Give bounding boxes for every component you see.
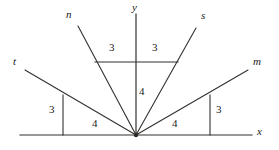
- length-label-m-run: 4: [172, 118, 178, 129]
- length-label-m-rise: 3: [216, 104, 222, 115]
- origin-point: [134, 133, 138, 137]
- length-label-t-run: 4: [92, 118, 98, 129]
- length-label-y-rise: 4: [139, 86, 145, 97]
- ray-label-t: t: [13, 56, 16, 67]
- length-label-s-run: 3: [152, 42, 158, 53]
- ray-t-line: [25, 70, 136, 135]
- ray-label-n: n: [66, 9, 72, 20]
- axis-label-x: x: [257, 126, 262, 137]
- length-label-n-run: 3: [109, 42, 115, 53]
- ray-s-line: [136, 28, 196, 135]
- ray-label-s: s: [201, 10, 205, 21]
- geometry-canvas: [0, 0, 279, 150]
- geometry-figure: t n s m x y 3 3 4 3 4 4 3: [0, 0, 279, 150]
- ray-label-m: m: [253, 56, 261, 67]
- length-label-t-rise: 3: [49, 104, 55, 115]
- ray-m-line: [136, 70, 248, 135]
- axis-label-y: y: [132, 2, 137, 13]
